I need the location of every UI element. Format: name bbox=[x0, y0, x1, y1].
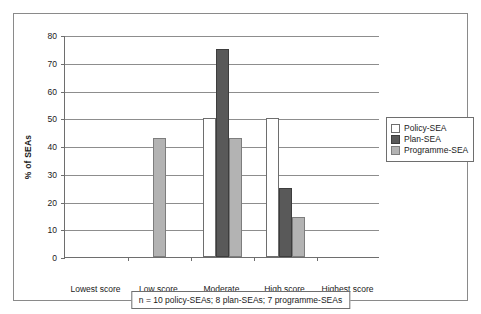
bar-programme bbox=[292, 217, 305, 257]
legend-swatch-policy bbox=[391, 124, 400, 133]
x-tick-mark bbox=[128, 257, 129, 261]
bar-programme bbox=[153, 138, 166, 257]
legend-item[interactable]: Plan-SEA bbox=[391, 135, 468, 144]
y-tick-label: 50 bbox=[48, 115, 57, 124]
bar-programme bbox=[229, 138, 242, 257]
chart-footnote: n = 10 policy-SEAs; 8 plan-SEAs; 7 progr… bbox=[131, 291, 350, 309]
y-tick-label: 70 bbox=[48, 60, 57, 69]
y-tick-label: 40 bbox=[48, 143, 57, 152]
chart-frame: % of SEAs 01020304050607080 Lowest score… bbox=[13, 13, 468, 301]
y-tick-mark bbox=[61, 203, 65, 204]
y-tick-mark bbox=[61, 92, 65, 93]
y-tick-mark bbox=[61, 36, 65, 37]
chart-legend: Policy-SEAPlan-SEAProgramme-SEA bbox=[386, 117, 474, 162]
y-tick-label: 10 bbox=[48, 226, 57, 235]
y-tick-mark bbox=[61, 64, 65, 65]
y-tick-mark bbox=[61, 147, 65, 148]
legend-label: Plan-SEA bbox=[404, 135, 441, 144]
legend-label: Programme-SEA bbox=[404, 146, 468, 155]
y-tick-label: 0 bbox=[52, 254, 57, 263]
y-tick-mark bbox=[61, 258, 65, 259]
gridline bbox=[65, 36, 379, 37]
bar-plan bbox=[216, 49, 229, 257]
plot-canvas: 01020304050607080 bbox=[64, 36, 379, 258]
y-tick-mark bbox=[61, 175, 65, 176]
plot-area: 01020304050607080 Lowest scoreLow scoreM… bbox=[64, 36, 379, 258]
y-tick-mark bbox=[61, 230, 65, 231]
y-axis-title: % of SEAs bbox=[23, 135, 33, 179]
x-tick-mark bbox=[191, 257, 192, 261]
x-tick-mark bbox=[317, 257, 318, 261]
bar-policy bbox=[266, 118, 279, 257]
bar-plan bbox=[279, 188, 292, 257]
bar-policy bbox=[203, 118, 216, 257]
legend-swatch-programme bbox=[391, 146, 400, 155]
y-tick-label: 20 bbox=[48, 198, 57, 207]
y-tick-label: 30 bbox=[48, 171, 57, 180]
legend-swatch-plan bbox=[391, 135, 400, 144]
footnote-text: n = 10 policy-SEAs; 8 plan-SEAs; 7 progr… bbox=[139, 295, 342, 305]
legend-label: Policy-SEA bbox=[404, 124, 447, 133]
legend-item[interactable]: Programme-SEA bbox=[391, 146, 468, 155]
x-tick-mark bbox=[254, 257, 255, 261]
legend-item[interactable]: Policy-SEA bbox=[391, 124, 468, 133]
y-tick-label: 60 bbox=[48, 87, 57, 96]
y-tick-mark bbox=[61, 119, 65, 120]
y-tick-label: 80 bbox=[48, 32, 57, 41]
